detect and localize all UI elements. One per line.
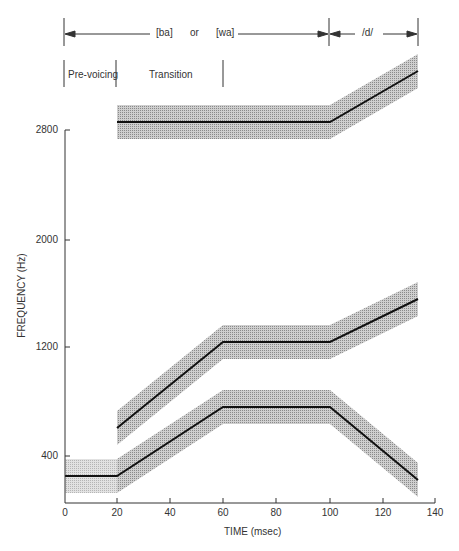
- wa-label: [wa]: [216, 27, 234, 38]
- x-tick-20: 20: [102, 507, 132, 518]
- x-tick-60: 60: [208, 507, 238, 518]
- prevoicing-label: Pre-voicing: [68, 69, 118, 80]
- d-label: /d/: [362, 27, 373, 38]
- x-tick-0: 0: [50, 507, 80, 518]
- y-tick-400: 400: [18, 450, 58, 461]
- x-tick-140: 140: [420, 507, 450, 518]
- x-tick-120: 120: [368, 507, 398, 518]
- formant-chart: [0, 0, 459, 551]
- ba-label: [ba]: [156, 27, 173, 38]
- y-axis-label: FREQUENCY (Hz): [16, 251, 27, 341]
- y-tick-1200: 1200: [18, 341, 58, 352]
- x-tick-40: 40: [155, 507, 185, 518]
- transition-label: Transition: [149, 69, 193, 80]
- or-label: or: [190, 27, 199, 38]
- x-tick-100: 100: [315, 507, 345, 518]
- y-tick-2000: 2000: [18, 234, 58, 245]
- x-axis-label: TIME (msec): [224, 526, 281, 537]
- x-tick-80: 80: [261, 507, 291, 518]
- y-tick-2800: 2800: [18, 124, 58, 135]
